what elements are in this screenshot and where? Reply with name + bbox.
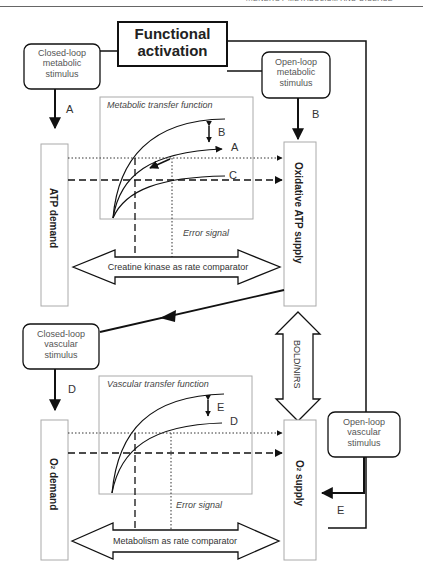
diagram-canvas	[0, 0, 423, 587]
text-line: stimulus	[23, 350, 99, 360]
demand-suffix: demand	[48, 469, 59, 510]
curve-label-b: B	[218, 126, 225, 139]
o2-demand-label: O2 demand	[48, 458, 59, 510]
curve-label-a: A	[231, 141, 238, 154]
oxidative-atp-supply-label: Oxidative ATP supply	[293, 162, 304, 264]
bold-nirs-label: BOLD/NIRS	[292, 340, 302, 389]
functional-activation-line2: activation	[118, 43, 227, 60]
o2-prefix: O	[294, 460, 305, 468]
metabolic-transfer-title: Metabolic transfer function	[107, 100, 213, 110]
open-loop-vascular-label: Open-loop vascular stimulus	[328, 417, 400, 448]
path-label-a: A	[66, 103, 73, 116]
text-line: metabolic	[262, 67, 330, 77]
vascular-transfer-panel	[99, 376, 252, 494]
closed-loop-metabolic-label: Closed-loop metabolic stimulus	[24, 48, 100, 79]
curve-label-c: C	[229, 169, 237, 182]
metabolism-comparator-label: Metabolism as rate comparator	[90, 536, 260, 546]
functional-activation-label: Functional activation	[118, 26, 227, 59]
path-label-d: D	[68, 383, 76, 396]
path-label-e: E	[337, 504, 344, 517]
curve-label-d: D	[230, 415, 238, 428]
text-line: Open-loop	[328, 417, 400, 427]
functional-activation-line1: Functional	[118, 26, 227, 43]
open-loop-metabolic-label: Open-loop metabolic stimulus	[262, 57, 330, 88]
text-line: Closed-loop	[23, 329, 99, 339]
text-line: vascular	[23, 339, 99, 349]
o2-prefix: O	[48, 458, 59, 466]
text-line: vascular	[328, 427, 400, 437]
path-label-b: B	[312, 108, 319, 121]
text-line: Open-loop	[262, 57, 330, 67]
closed-loop-vascular-label: Closed-loop vascular stimulus	[23, 329, 99, 360]
metabolic-error-signal: Error signal	[183, 228, 229, 238]
text-line: stimulus	[262, 78, 330, 88]
curve-label-e: E	[217, 401, 224, 414]
atp-demand-label: ATP demand	[48, 188, 59, 248]
text-line: metabolic	[24, 58, 100, 68]
text-line: Closed-loop	[24, 48, 100, 58]
supply-suffix: supply	[294, 471, 305, 506]
text-line: stimulus	[328, 438, 400, 448]
text-line: stimulus	[24, 69, 100, 79]
vascular-error-signal: Error signal	[176, 500, 222, 510]
creatine-kinase-label: Creatine kinase as rate comparator	[88, 262, 268, 272]
o2-supply-label: O2 supply	[294, 460, 305, 506]
vascular-transfer-title: Vascular transfer function	[107, 379, 209, 389]
